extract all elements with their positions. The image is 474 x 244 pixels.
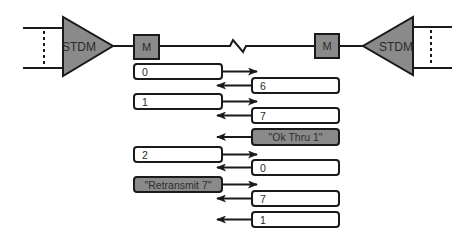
message-frame-6-received: 6 [217,78,339,93]
left-stdm-multiplexer: STDM [23,17,113,76]
svg-text:0: 0 [142,66,148,78]
left-modem: M [134,35,159,59]
left-mux-label: STDM [62,40,96,54]
right-stdm-multiplexer: STDM [363,17,452,75]
svg-text:2: 2 [142,149,148,161]
message-frame-2-sent: 2 [134,147,257,162]
svg-text:"Retransmit 7": "Retransmit 7" [145,179,212,191]
message-frame-0-received: 0 [217,160,339,175]
right-modem: M [315,34,339,58]
svg-text:0: 0 [260,162,266,174]
right-mux-label: STDM [379,40,413,54]
right-modem-label: M [322,40,331,52]
message-frame-7-retransmitted: 7 [217,191,339,206]
svg-text:1: 1 [260,214,266,226]
message-frame-1-sent: 1 [134,94,257,109]
message-control-retransmit-7: "Retransmit 7" [134,177,257,192]
message-frame-1-received: 1 [217,212,339,227]
stdm-diagram: STDM M M STDM 0 6 1 [0,0,474,244]
svg-text:7: 7 [260,110,266,122]
long-distance-break-icon [159,40,315,52]
left-modem-label: M [142,41,151,53]
message-frame-0-sent: 0 [134,64,257,79]
message-control-ok-thru-1: "Ok Thru 1" [217,129,339,145]
svg-text:7: 7 [260,193,266,205]
svg-text:1: 1 [142,96,148,108]
message-frame-7-received: 7 [217,108,339,123]
svg-text:6: 6 [260,80,266,92]
svg-text:"Ok Thru 1": "Ok Thru 1" [269,131,323,143]
